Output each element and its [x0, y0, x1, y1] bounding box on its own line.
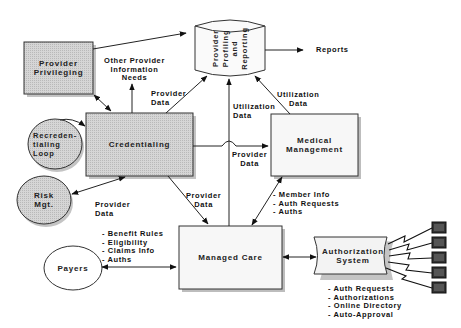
auth-items-label: - Auth Requests - Authorizations - Onlin…: [328, 285, 402, 319]
payers-items-label: - Benefit Rules - Eligibility - Claims I…: [102, 230, 164, 264]
managed-care-label: Managed Care: [179, 226, 282, 289]
other-provider-info-label: Other Provider Information Needs: [104, 57, 165, 83]
recredentialing-loop-label: Recreden-tialingLoop: [28, 119, 82, 169]
medical-management-label: MedicalManagement: [271, 114, 358, 176]
utilization-data-mc-label: Utilization Data: [233, 103, 275, 120]
mm-mc-items-label: - Member Info - Auth Requests - Auths: [273, 191, 339, 217]
authorization-system-label: AuthorizationSystem: [318, 237, 388, 274]
provider-privileging-label: ProviderPrivileging: [24, 42, 93, 94]
payers-label: Payers: [44, 246, 102, 290]
provider-data-risk-label: Provider Data: [95, 201, 130, 218]
terminal-icons: [432, 222, 446, 293]
reports-label: Reports: [316, 46, 349, 55]
edge-privileging-credentialing: [94, 95, 111, 111]
provider-data-cred-mc-label: Provider Data: [186, 192, 221, 209]
provider-data-cred-mm-label: Provider Data: [232, 151, 267, 168]
lightning-links: [386, 228, 432, 288]
edge-privileging-profiling: [93, 33, 186, 49]
credentialing-label: Credentialing: [86, 113, 193, 176]
diagram-canvas: ProviderPrivileging Credentialing Recred…: [0, 0, 461, 328]
provider-profiling-label: Provider Profiling and Reporting: [195, 22, 265, 74]
risk-mgt-label: RiskMgt.: [17, 176, 71, 224]
edge-cred-mm: [193, 141, 268, 146]
edge-risk-cred: [72, 177, 125, 194]
provider-data-cred-profiling-label: Provider Data: [151, 90, 186, 107]
utilization-data-mm-label: Utilization Data: [277, 91, 319, 108]
